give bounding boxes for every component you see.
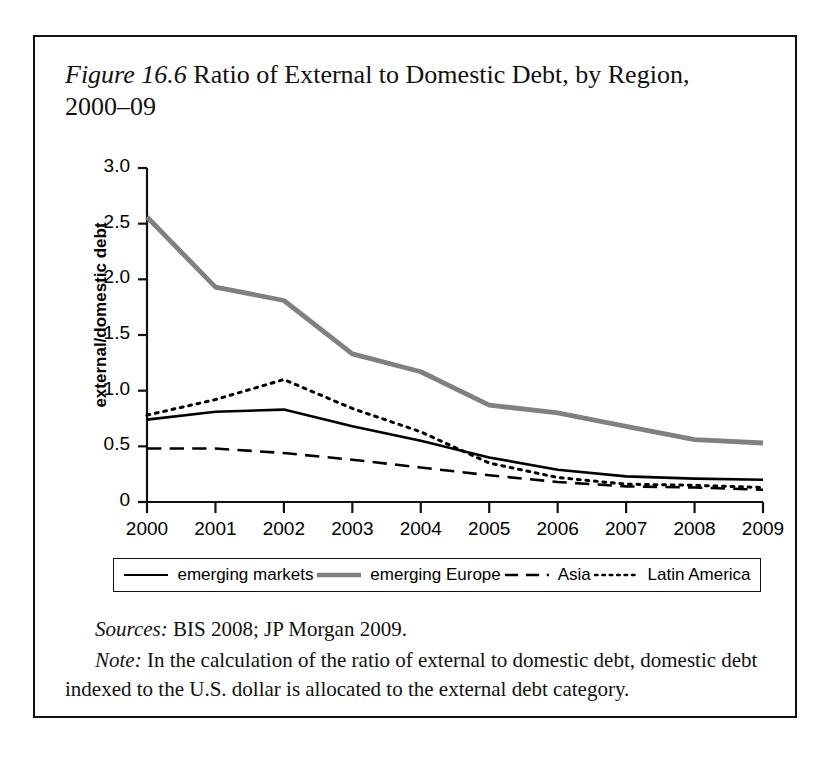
- y-tick-label: 1.5: [82, 322, 130, 344]
- legend-swatch-dotted-icon: [594, 569, 640, 581]
- legend-item-latin-america[interactable]: Latin America: [594, 565, 751, 585]
- x-tick-label: 2004: [386, 518, 456, 540]
- note-label: Note:: [95, 648, 142, 672]
- x-tick-label: 2005: [454, 518, 524, 540]
- y-tick-label: 1.0: [82, 378, 130, 400]
- legend-label: emerging markets: [177, 565, 313, 585]
- y-tick-label: 3.0: [82, 155, 130, 177]
- figure-notes: Sources: BIS 2008; JP Morgan 2009. Note:…: [65, 613, 765, 704]
- y-tick-label: 2.5: [82, 211, 130, 233]
- x-tick-label: 2001: [180, 518, 250, 540]
- legend-item-emerging-markets[interactable]: emerging markets: [123, 565, 313, 585]
- x-tick-label: 2007: [591, 518, 661, 540]
- series-line-emerging-europe: [147, 217, 763, 443]
- legend-swatch-solid-icon: [123, 569, 169, 581]
- y-tick-label: 2.0: [82, 266, 130, 288]
- x-tick-label: 2003: [317, 518, 387, 540]
- legend-label: Latin America: [648, 565, 751, 585]
- series-line-emerging-markets: [147, 410, 763, 480]
- note-line: Note: In the calculation of the ratio of…: [65, 646, 765, 704]
- legend-swatch-solid-icon: [316, 569, 362, 581]
- sources-text: BIS 2008; JP Morgan 2009.: [168, 617, 407, 641]
- figure-frame: Figure 16.6 Ratio of External to Domesti…: [33, 35, 797, 718]
- y-tick-label: 0.5: [82, 433, 130, 455]
- legend-label: Asia: [558, 565, 591, 585]
- x-tick-label: 2009: [728, 518, 798, 540]
- x-tick-label: 2006: [523, 518, 593, 540]
- legend-item-asia[interactable]: Asia: [504, 565, 591, 585]
- legend-label: emerging Europe: [370, 565, 500, 585]
- sources-label: Sources:: [95, 617, 168, 641]
- legend-swatch-dashed-icon: [504, 569, 550, 581]
- note-text: In the calculation of the ratio of exter…: [65, 648, 757, 701]
- x-tick-label: 2002: [249, 518, 319, 540]
- legend-item-emerging-europe[interactable]: emerging Europe: [316, 565, 500, 585]
- chart-legend: emerging marketsemerging EuropeAsiaLatin…: [113, 558, 761, 592]
- x-tick-label: 2008: [660, 518, 730, 540]
- x-tick-label: 2000: [112, 518, 182, 540]
- y-tick-label: 0: [82, 489, 130, 511]
- sources-line: Sources: BIS 2008; JP Morgan 2009.: [65, 615, 765, 644]
